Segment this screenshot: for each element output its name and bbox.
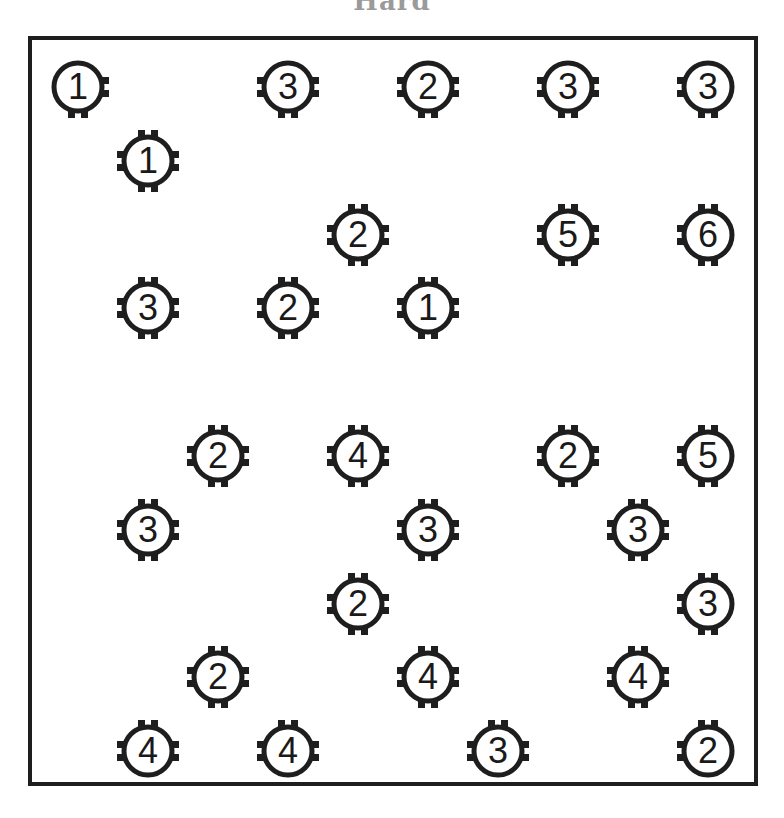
island-node[interactable]: 4	[606, 645, 670, 709]
island-node[interactable]: 4	[256, 719, 320, 783]
island-value: 1	[396, 276, 460, 340]
island-value: 4	[256, 719, 320, 783]
island-value: 3	[466, 719, 530, 783]
island-node[interactable]: 3	[606, 498, 670, 562]
island-node[interactable]: 4	[326, 424, 390, 488]
island-value: 3	[536, 55, 600, 119]
island-node[interactable]: 1	[46, 55, 110, 119]
island-node[interactable]: 6	[676, 203, 740, 267]
island-value: 3	[676, 572, 740, 636]
island-value: 3	[676, 55, 740, 119]
puzzle-board[interactable]: 1 3 2 3 3 1	[28, 36, 758, 786]
island-value: 2	[676, 719, 740, 783]
island-value: 2	[536, 424, 600, 488]
island-value: 4	[116, 719, 180, 783]
island-value: 3	[116, 276, 180, 340]
island-value: 3	[606, 498, 670, 562]
island-node[interactable]: 3	[116, 498, 180, 562]
island-node[interactable]: 3	[676, 572, 740, 636]
island-value: 2	[326, 203, 390, 267]
island-value: 2	[186, 645, 250, 709]
island-value: 2	[396, 55, 460, 119]
island-value: 5	[536, 203, 600, 267]
island-value: 4	[326, 424, 390, 488]
island-node[interactable]: 5	[676, 424, 740, 488]
island-node[interactable]: 4	[116, 719, 180, 783]
island-value: 3	[116, 498, 180, 562]
island-node[interactable]: 2	[396, 55, 460, 119]
island-node[interactable]: 2	[326, 572, 390, 636]
island-value: 6	[676, 203, 740, 267]
island-node[interactable]: 2	[256, 276, 320, 340]
island-value: 3	[256, 55, 320, 119]
island-value: 2	[256, 276, 320, 340]
island-value: 4	[606, 645, 670, 709]
island-node[interactable]: 4	[396, 645, 460, 709]
island-node[interactable]: 5	[536, 203, 600, 267]
island-node[interactable]: 2	[536, 424, 600, 488]
island-node[interactable]: 3	[536, 55, 600, 119]
island-value: 4	[396, 645, 460, 709]
island-node[interactable]: 3	[466, 719, 530, 783]
island-node[interactable]: 1	[116, 129, 180, 193]
island-value: 2	[326, 572, 390, 636]
island-value: 2	[186, 424, 250, 488]
island-value: 1	[116, 129, 180, 193]
island-node[interactable]: 3	[676, 55, 740, 119]
island-node[interactable]: 1	[396, 276, 460, 340]
island-node[interactable]: 2	[186, 645, 250, 709]
island-node[interactable]: 3	[116, 276, 180, 340]
island-value: 1	[46, 55, 110, 119]
island-node[interactable]: 3	[396, 498, 460, 562]
island-node[interactable]: 2	[326, 203, 390, 267]
puzzle-difficulty-title: Hard	[0, 0, 784, 16]
island-node[interactable]: 2	[186, 424, 250, 488]
island-node[interactable]: 2	[676, 719, 740, 783]
island-value: 3	[396, 498, 460, 562]
island-node[interactable]: 3	[256, 55, 320, 119]
island-value: 5	[676, 424, 740, 488]
